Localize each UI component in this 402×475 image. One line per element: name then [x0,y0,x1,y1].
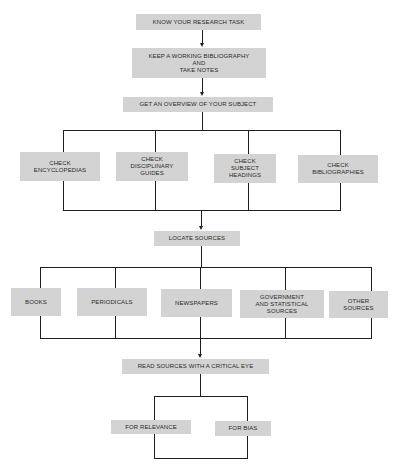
step-get-overview: GET AN OVERVIEW OF YOUR SUBJECT [123,97,273,112]
branch-line-top [154,396,248,397]
step-read-critically: READ SOURCES WITH A CRITICAL EYE [122,359,269,374]
branch-for-relevance: FOR RELEVANCE [111,420,191,434]
branch-for-bias: FOR BIAS [215,421,271,436]
branch-line-bottom [40,338,372,339]
connector [200,374,201,396]
connector [202,112,203,131]
branch-line-top [63,130,341,131]
branch-line-top [40,267,372,268]
branch-line-bottom [63,210,341,211]
arrow-down-icon [200,43,204,47]
connector [200,339,201,355]
branch-books: BOOKS [11,288,61,316]
connector [202,78,203,93]
step-know-research-task: KNOW YOUR RESEARCH TASK [136,14,261,30]
arrow-down-icon [200,92,204,96]
branch-check-disciplinary-guides: CHECK DISCIPLINARY GUIDES [116,152,188,181]
branch-government-statistical: GOVERNMENT AND STATISTICAL SOURCES [240,290,324,318]
branch-check-subject-headings: CHECK SUBJECT HEADINGS [214,154,276,183]
branch-newspapers: NEWSPAPERS [161,289,232,317]
connector [201,246,202,267]
branch-check-bibliographies: CHECK BIBLIOGRAPHIES [298,155,378,183]
branch-line-bottom [154,458,248,459]
connector [202,30,203,44]
step-keep-bibliography: KEEP A WORKING BIBLIOGRAPHY AND TAKE NOT… [132,48,266,78]
step-locate-sources: LOCATE SOURCES [154,231,240,246]
branch-check-encyclopedias: CHECK ENCYCLOPEDIAS [20,152,100,181]
branch-periodicals: PERIODICALS [77,288,147,316]
connector [201,211,202,227]
branch-other-sources: OTHER SOURCES [329,291,388,318]
arrow-down-icon [198,354,202,358]
arrow-down-icon [199,226,203,230]
